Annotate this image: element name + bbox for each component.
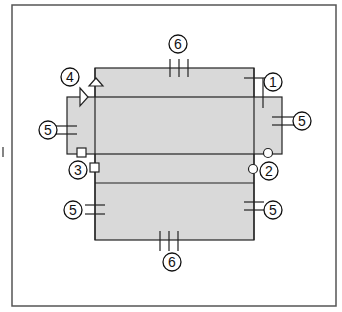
- callout-6-label: 6: [168, 254, 176, 270]
- callout-2-label: 2: [265, 163, 273, 179]
- callout-5-label: 5: [69, 202, 77, 218]
- callout-5-label: 5: [44, 122, 52, 138]
- circle-marker-icon: [249, 165, 258, 174]
- square-icon: [90, 163, 99, 172]
- callout-6-label: 6: [174, 36, 182, 52]
- callout-5-label: 5: [298, 113, 306, 129]
- callout-1-label: 1: [269, 74, 277, 90]
- diagram-canvas: 6 6 1 4 5 5 3: [0, 0, 342, 312]
- callout-3-label: 3: [74, 162, 82, 178]
- callout-4-label: 4: [66, 69, 74, 85]
- wide-strip: [67, 97, 282, 154]
- callout-5-label: 5: [269, 202, 277, 218]
- circle-marker-icon: [264, 149, 273, 158]
- square-icon: [77, 148, 86, 157]
